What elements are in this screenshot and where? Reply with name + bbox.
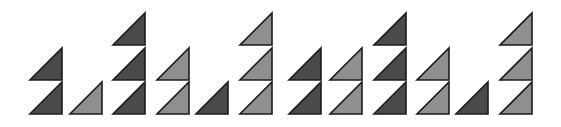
right-triangle-light [500, 48, 532, 80]
right-triangle-light [240, 13, 272, 45]
triangle-column-1 [30, 48, 62, 114]
triangle-column-6 [240, 13, 272, 114]
right-triangle-dark [196, 82, 228, 114]
triangle-column-9 [374, 13, 406, 114]
right-triangle-light [500, 13, 532, 45]
right-triangle-light [157, 48, 189, 80]
right-triangle-light [157, 82, 189, 114]
right-triangle-light [240, 48, 272, 80]
triangle-pattern [0, 0, 561, 127]
right-triangle-light [500, 82, 532, 114]
triangle-column-12 [500, 13, 532, 114]
right-triangle-light [417, 82, 449, 114]
triangle-column-4 [157, 48, 189, 114]
right-triangle-light [70, 82, 102, 114]
right-triangle-light [240, 82, 272, 114]
right-triangle-dark [374, 48, 406, 80]
right-triangle-dark [456, 82, 488, 114]
right-triangle-dark [113, 13, 145, 45]
triangle-column-5 [196, 82, 228, 114]
right-triangle-dark [30, 48, 62, 80]
right-triangle-light [417, 48, 449, 80]
right-triangle-dark [374, 82, 406, 114]
right-triangle-dark [113, 82, 145, 114]
triangle-column-8 [330, 48, 362, 114]
right-triangle-dark [289, 82, 321, 114]
triangle-column-11 [456, 82, 488, 114]
right-triangle-dark [289, 48, 321, 80]
triangle-column-3 [113, 13, 145, 114]
right-triangle-light [330, 48, 362, 80]
triangle-column-2 [70, 82, 102, 114]
right-triangle-dark [30, 82, 62, 114]
right-triangle-dark [374, 13, 406, 45]
triangle-column-10 [417, 48, 449, 114]
right-triangle-dark [113, 48, 145, 80]
triangle-column-7 [289, 48, 321, 114]
right-triangle-light [330, 82, 362, 114]
